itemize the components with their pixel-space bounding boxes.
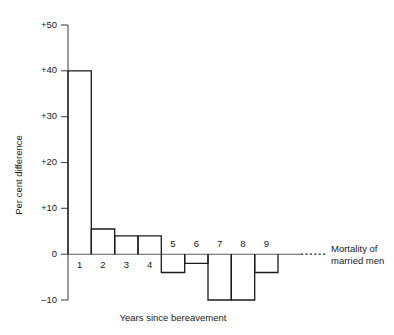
bar-label-5: 5 [170,238,175,249]
bar-year-6 [185,254,208,263]
bar-year-1 [68,71,91,254]
bar-year-2 [91,229,114,254]
y-tick-label-10: +10 [41,202,57,213]
bar-label-7: 7 [217,238,222,249]
y-tick-label-0: 0 [52,248,57,259]
bar-year-8 [231,254,254,300]
annotation-line-2: married men [331,255,384,266]
bar-label-4: 4 [147,259,152,270]
chart-svg: +50 +40 +30 +20 +10 0 –10 1 2 3 4 [0,0,394,335]
y-tick-label-30: +30 [41,110,57,121]
bar-label-6: 6 [194,238,199,249]
y-axis-title: Per cent difference [13,135,24,215]
y-tick-label-40: +40 [41,64,57,75]
y-tick-label-20: +20 [41,156,57,167]
bar-year-5 [161,254,184,272]
bar-year-7 [208,254,231,300]
y-axis-ticks [61,25,68,300]
bereavement-mortality-chart: +50 +40 +30 +20 +10 0 –10 1 2 3 4 [0,0,394,335]
x-axis-title: Years since bereavement [120,312,227,323]
y-tick-label-50: +50 [41,19,57,30]
y-tick-label-minus10: –10 [41,294,57,305]
bar-label-3: 3 [124,259,129,270]
bar-label-2: 2 [100,259,105,270]
bar-label-8: 8 [240,238,245,249]
bar-label-1: 1 [77,259,82,270]
annotation-line-1: Mortality of [331,243,378,254]
bar-year-9 [255,254,278,272]
bar-label-9: 9 [264,238,269,249]
bar-year-4 [138,236,161,254]
bar-year-3 [115,236,138,254]
